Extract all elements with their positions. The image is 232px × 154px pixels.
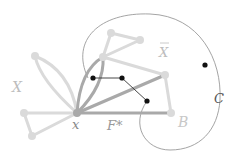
label-f-star: F* <box>106 118 123 133</box>
label-x: x <box>72 117 80 132</box>
graph-diagram: X X x F* B C <box>0 0 232 154</box>
label-X: X <box>11 79 23 95</box>
label-xbar: X <box>158 45 169 60</box>
label-B: B <box>177 114 188 130</box>
label-C: C <box>214 91 224 106</box>
node-x <box>73 109 81 117</box>
f-star-edges <box>77 57 171 113</box>
dual-path <box>93 78 147 101</box>
